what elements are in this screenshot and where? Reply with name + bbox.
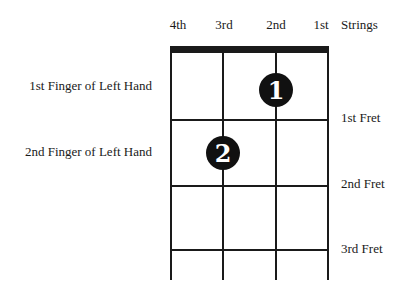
finger-dot-1: 1 bbox=[259, 73, 293, 107]
fret-line-2 bbox=[170, 185, 329, 187]
string-label-4th: 4th bbox=[170, 18, 187, 31]
finger-label-1: 1st Finger of Left Hand bbox=[29, 79, 152, 92]
fret-line-1 bbox=[170, 119, 329, 121]
fret-label-1: 1st Fret bbox=[341, 111, 380, 124]
string-line-4th bbox=[170, 50, 172, 280]
nut bbox=[170, 46, 329, 53]
string-label-3rd: 3rd bbox=[215, 18, 232, 31]
fret-line-3 bbox=[170, 249, 329, 251]
string-label-1st: 1st bbox=[313, 18, 328, 31]
fret-label-3: 3rd Fret bbox=[341, 242, 383, 255]
strings-title: Strings bbox=[341, 18, 378, 31]
fret-label-2: 2nd Fret bbox=[341, 177, 385, 190]
string-label-2nd: 2nd bbox=[266, 18, 286, 31]
finger-label-2: 2nd Finger of Left Hand bbox=[25, 145, 152, 158]
finger-dot-2: 2 bbox=[206, 136, 240, 170]
string-line-1st bbox=[327, 50, 329, 280]
